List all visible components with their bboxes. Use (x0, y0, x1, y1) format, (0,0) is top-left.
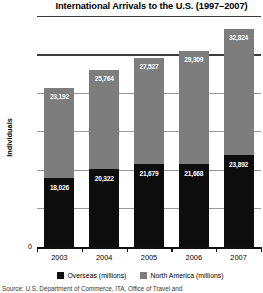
x-tick-label-2004: 2004 (81, 253, 127, 262)
x-tick-2005 (127, 247, 128, 252)
legend-item-overseas[interactable]: Overseas (millions) (57, 272, 126, 279)
gridline-60000 (37, 16, 261, 18)
bar-value-label-overseas-2004: 20,322 (89, 175, 119, 182)
bar-segment-north-america-2005[interactable] (134, 58, 164, 164)
bar-value-label-north-america-2007: 32,824 (224, 34, 254, 41)
x-tick-label-2003: 2003 (36, 253, 82, 262)
x-tick-end (261, 247, 262, 252)
y-axis-title: Individuals (5, 108, 14, 168)
bar-value-label-north-america-2003: 23,192 (44, 93, 74, 100)
chart-legend: Overseas (millions)North America (millio… (38, 270, 243, 281)
plot-area: 010,00020,00030,00040,00050,00060,00018,… (37, 16, 261, 247)
legend-swatch-icon-overseas (57, 272, 64, 279)
bar-value-label-north-america-2004: 25,764 (89, 75, 119, 82)
y-tick-label-0-axis: 0 (0, 242, 32, 251)
bar-segment-north-america-2006[interactable] (179, 51, 209, 164)
x-tick-label-2006: 2006 (171, 253, 217, 262)
legend-swatch-icon-north-america (140, 272, 147, 279)
bar-segment-north-america-2003[interactable] (44, 88, 74, 177)
x-axis-line (37, 247, 261, 249)
legend-item-north-america[interactable]: North America (millions) (140, 272, 223, 279)
chart-container: International Arrivals to the U.S. (1997… (0, 0, 263, 293)
x-tick-2003 (37, 247, 38, 252)
x-tick-2004 (82, 247, 83, 252)
bar-segment-north-america-2007[interactable] (224, 29, 254, 155)
bar-value-label-overseas-2007: 23,892 (224, 161, 254, 168)
legend-label-north-america: North America (millions) (150, 272, 223, 279)
x-tick-label-2007: 2007 (216, 253, 262, 262)
x-tick-label-2005: 2005 (126, 253, 172, 262)
legend-label-overseas: Overseas (millions) (67, 272, 126, 279)
x-tick-2006 (171, 247, 172, 252)
bar-value-label-north-america-2006: 29,309 (179, 56, 209, 63)
bar-segment-overseas-2007[interactable] (224, 155, 254, 247)
chart-title: International Arrivals to the U.S. (1997… (40, 1, 263, 12)
source-note: Source: U.S. Department of Commerce, ITA… (2, 285, 263, 292)
x-tick-2007 (216, 247, 217, 252)
bar-value-label-north-america-2005: 27,527 (134, 63, 164, 70)
bar-segment-north-america-2004[interactable] (89, 70, 119, 169)
bar-value-label-overseas-2006: 21,668 (179, 170, 209, 177)
bar-value-label-overseas-2005: 21,679 (134, 170, 164, 177)
bar-value-label-overseas-2003: 18,026 (44, 184, 74, 191)
